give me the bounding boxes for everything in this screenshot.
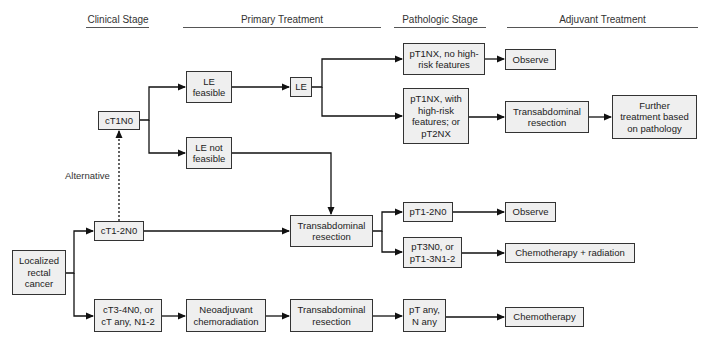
- node-le-not-feasible: LE not feasible: [186, 137, 232, 169]
- node-localized-rectal-cancer: Localized rectal cancer: [12, 250, 66, 295]
- node-chemotherapy: Chemotherapy: [505, 307, 584, 327]
- node-chemotherapy-radiation: Chemotherapy + radiation: [505, 243, 635, 263]
- alternative-label: Alternative: [65, 170, 110, 181]
- node-observe-2: Observe: [505, 202, 556, 222]
- node-ct1n0: cT1N0: [98, 111, 140, 130]
- node-le: LE: [290, 77, 312, 97]
- node-transabdominal-resection-mid: Transabdominal resection: [290, 215, 373, 247]
- node-pt1nx-with-high-risk: pT1NX, with high-risk features; or pT2NX: [403, 88, 469, 144]
- rectal-cancer-treatment-flowchart: Clinical Stage Primary Treatment Patholo…: [0, 0, 706, 340]
- node-transabdominal-resection-bottom: Transabdominal resection: [290, 299, 373, 332]
- node-pt1nx-no-high-risk: pT1NX, no high- risk features: [403, 43, 485, 75]
- node-le-feasible: LE feasible: [186, 71, 232, 103]
- node-transabdominal-resection-adjuvant: Transabdominal resection: [505, 101, 589, 133]
- node-pt1-2n0: pT1-2N0: [403, 202, 453, 222]
- node-further-treatment: Further treatment based on pathology: [612, 95, 697, 139]
- node-ct3-4n0: cT3-4N0, or cT any, N1-2: [94, 299, 162, 332]
- node-observe-1: Observe: [505, 49, 556, 70]
- node-pt3n0: pT3N0, or pT1-3N1-2: [403, 237, 462, 268]
- node-neoadjuvant-chemoradiation: Neoadjuvant chemoradiation: [186, 299, 266, 332]
- node-pt-any-n-any: pT any, N any: [403, 299, 446, 332]
- node-ct1-2n0: cT1-2N0: [94, 221, 144, 241]
